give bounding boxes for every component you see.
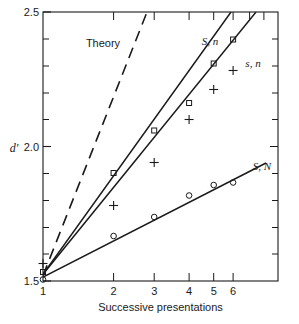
y-axis-ticks-right [270,39,278,254]
annotation-lower-curve: S, N [253,160,272,172]
chart-svg: 2.5 2.0 1.5 1 2 3 4 5 6 Successive prese… [0,0,299,324]
x-tick-label-3: 3 [151,285,157,297]
x-axis-ticks-bottom [114,273,234,281]
y-axis-major-ticks [43,12,51,281]
x-tick-label-1: 1 [40,285,46,297]
annotation-theory: Theory [86,37,121,49]
x-tick-label-6: 6 [230,285,236,297]
x-tick-label-5: 5 [211,285,217,297]
y-tick-label-mid: 2.0 [24,141,39,153]
series-S-n-line [43,12,231,274]
series-s-n-line [43,12,256,274]
x-tick-label-4: 4 [186,285,192,297]
y-axis-title: d′ [10,141,19,155]
y-tick-label-top: 2.5 [24,6,39,18]
x-axis-title: Successive presentations [98,301,223,313]
x-tick-label-2: 2 [111,285,117,297]
plot-frame [43,12,278,281]
y-tick-label-bottom: 1.5 [24,275,39,287]
annotation-middle-curve: s, n [245,57,261,69]
annotation-upper-curve: S, n [202,35,219,47]
figure-container: 2.5 2.0 1.5 1 2 3 4 5 6 Successive prese… [0,0,299,324]
series-theory-line [43,12,147,276]
x-axis-ticks-top [114,12,264,20]
series-S-N-markers [40,180,236,283]
